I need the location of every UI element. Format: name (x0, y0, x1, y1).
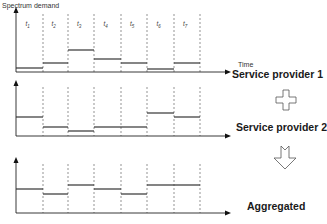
x-axis-arrow-icon (225, 134, 231, 139)
time-slot-label: t2 (52, 20, 56, 29)
provider2-label: Service provider 2 (236, 121, 327, 133)
down-arrow-icon (274, 146, 296, 169)
y-axis-arrow-icon (14, 157, 19, 163)
time-slot-label: t4 (104, 20, 108, 29)
plus-icon (276, 90, 296, 110)
x-axis-arrow-icon (225, 70, 231, 75)
time-slot-label: t6 (157, 20, 161, 29)
y-axis-label: Spectrum demand (2, 2, 59, 9)
time-slot-label: t5 (130, 20, 134, 29)
aggregated-label: Aggregated (247, 200, 305, 212)
provider1-label: Service provider 1 (232, 68, 323, 80)
time-slot-label: t7 (183, 20, 187, 29)
time-slot-label: t3 (77, 20, 81, 29)
time-slot-label: t1 (26, 20, 30, 29)
x-axis-label: Time (238, 61, 253, 68)
y-axis-arrow-icon (14, 80, 19, 86)
x-axis-arrow-icon (225, 211, 231, 216)
